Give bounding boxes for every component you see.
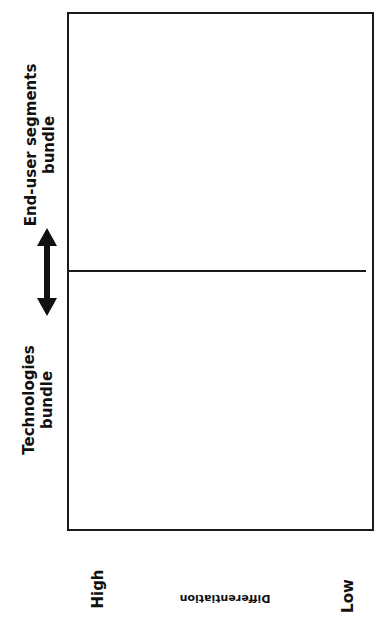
- segment-label-line1: End-user segments: [22, 60, 40, 230]
- double-arrow-vertical-icon: [36, 228, 58, 316]
- segment-label-technologies: Technologies bundle: [20, 330, 56, 470]
- segment-label-line2: bundle: [38, 330, 56, 470]
- segment-label-end-user: End-user segments bundle: [22, 60, 58, 230]
- axis-title: Differentiation: [170, 592, 280, 605]
- axis-low-label: Low: [339, 578, 357, 614]
- segment-divider: [69, 270, 366, 272]
- axis-high-label: High: [89, 569, 107, 609]
- segment-label-line1: Technologies: [20, 330, 38, 470]
- segment-label-line2: bundle: [40, 60, 58, 230]
